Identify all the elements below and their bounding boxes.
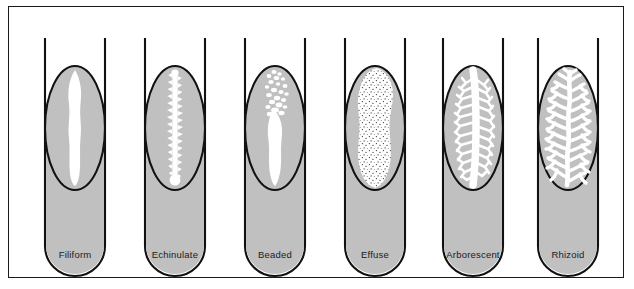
tube-label-echinulate: Echinulate (152, 249, 198, 260)
tube-effuse (345, 38, 405, 276)
tube-rhizoid (538, 38, 598, 276)
tube-label-arborescent: Arborescent (446, 249, 499, 260)
tube-filiform (45, 38, 105, 276)
tube-label-beaded: Beaded (258, 249, 292, 260)
tube-label-rhizoid: Rhizoid (551, 249, 584, 260)
tube-beaded (245, 38, 305, 276)
tube-label-filiform: Filiform (59, 249, 92, 260)
tube-diagram-stage (0, 0, 634, 289)
growth-pattern-figure: Filiform Echinulate Beaded Effuse Arbore… (0, 0, 634, 289)
tube-echinulate (145, 38, 205, 276)
tube-label-effuse: Effuse (361, 249, 389, 260)
tube-arborescent (443, 38, 503, 276)
growth-filiform (68, 70, 81, 186)
growth-effuse (358, 68, 393, 188)
